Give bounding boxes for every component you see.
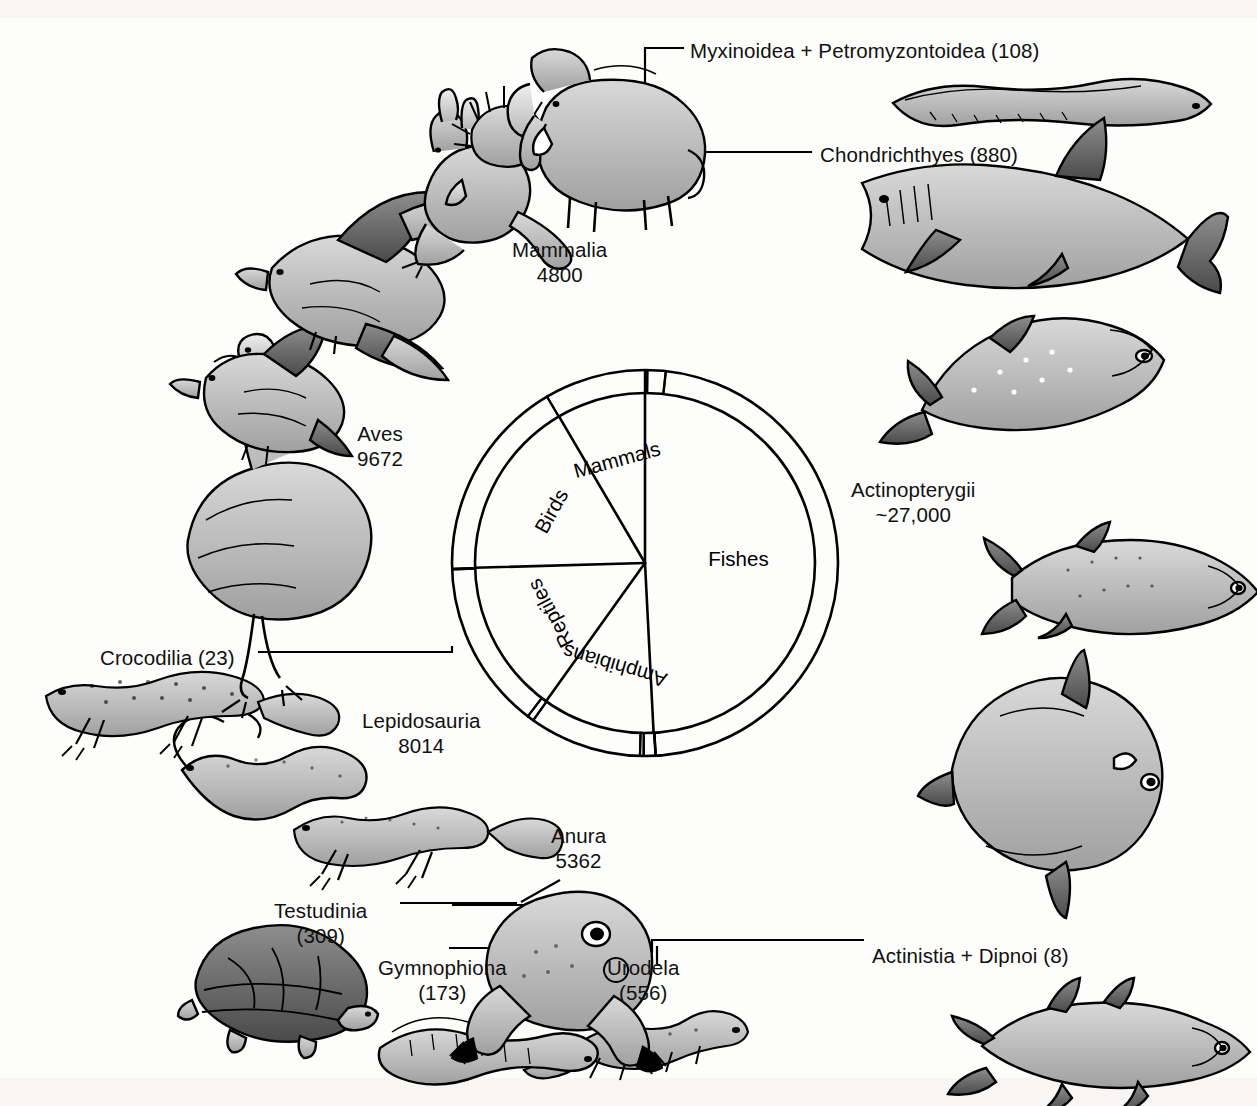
label-mammalia: Mammalia4800 [512,237,607,287]
label-lepidosauria-line1: Lepidosauria [362,708,481,733]
label-actinopterygii-line2: ~27,000 [851,502,975,527]
label-anura-line2: 5362 [551,848,606,873]
hagfish-lamprey-illustration [893,79,1211,126]
label-myxinoidea-line1: Myxinoidea + Petromyzontoidea (108) [690,38,1039,63]
label-aves-line1: Aves [357,421,403,446]
label-mammalia-line1: Mammalia [512,237,607,262]
lizard-illustration [294,807,563,890]
coelacanth-illustration [948,978,1250,1106]
label-gymnophiona-line1: Gymnophiona [378,955,507,980]
trout-illustration [880,316,1164,444]
label-aves: Aves9672 [357,421,403,471]
figure-canvas: FishesAmphibiansReptilesBirdsMammals [0,0,1257,1106]
elephant-illustration [508,49,705,232]
label-actinistia-line1: Actinistia + Dipnoi (8) [872,943,1069,968]
crocodile-illustration [46,672,339,760]
label-actinopterygii: Actinopterygii~27,000 [851,477,975,527]
label-crocodilia: Crocodilia (23) [100,645,235,670]
label-urodela-line1: Urodela [607,955,680,980]
tuna-illustration [982,522,1257,638]
label-urodela: Urodela(556) [607,955,680,1005]
label-lepidosauria-line2: 8014 [362,733,481,758]
label-chondrichthyes-line1: Chondrichthyes (880) [820,142,1018,167]
sunfish-illustration [918,650,1162,918]
label-actinistia: Actinistia + Dipnoi (8) [872,943,1069,968]
label-testudinia-line2: (309) [274,923,367,948]
illustration-layer [0,0,1257,1106]
label-myxinoidea: Myxinoidea + Petromyzontoidea (108) [690,38,1039,63]
label-testudinia: Testudinia(309) [274,898,367,948]
label-anura: Anura5362 [551,823,606,873]
label-actinopterygii-line1: Actinopterygii [851,477,975,502]
label-gymnophiona-line2: (173) [378,980,507,1005]
label-testudinia-line1: Testudinia [274,898,367,923]
label-anura-line1: Anura [551,823,606,848]
label-mammalia-line2: 4800 [512,262,607,287]
label-chondrichthyes: Chondrichthyes (880) [820,142,1018,167]
label-gymnophiona: Gymnophiona(173) [378,955,507,1005]
label-aves-line2: 9672 [357,446,403,471]
label-urodela-line2: (556) [607,980,680,1005]
label-crocodilia-line1: Crocodilia (23) [100,645,235,670]
label-lepidosauria: Lepidosauria8014 [362,708,481,758]
